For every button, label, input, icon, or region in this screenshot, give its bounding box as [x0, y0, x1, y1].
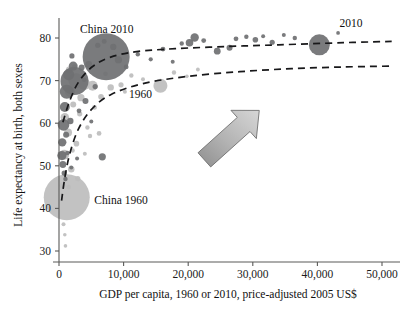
- y-axis-ticks: 304050607080: [40, 32, 60, 257]
- bubble-1960-19: [107, 84, 113, 90]
- bubble-1960-9: [75, 176, 80, 181]
- bubble-2010-42: [82, 98, 88, 104]
- bubble-2010-46: [77, 108, 82, 113]
- bubble-2010-45: [69, 166, 73, 170]
- bubble-2010-34: [282, 33, 286, 37]
- bubble-2010-40: [65, 151, 69, 155]
- bubble-1960-24: [172, 70, 176, 74]
- bubble-2010-12: [79, 64, 85, 70]
- y-tick-label-30: 30: [40, 245, 52, 257]
- bubble-2010-43: [93, 84, 98, 89]
- bubble-2010-37: [336, 31, 340, 35]
- bubble-2010-3: [63, 69, 74, 80]
- bubble-1960-25: [185, 75, 189, 79]
- x-tick-label-30000: 30,000: [237, 268, 269, 281]
- bubble-1960-13: [64, 244, 68, 248]
- x-tick-label-20000: 20,000: [172, 268, 204, 281]
- growth-arrow-shape: [198, 110, 259, 167]
- bubble-2010-44: [99, 153, 106, 160]
- bubble-2010-14: [95, 43, 100, 48]
- bubble-2010-10: [63, 132, 69, 138]
- bubble-1960-22: [141, 77, 145, 81]
- series-2010-label: 2010: [339, 17, 362, 29]
- y-tick-label-80: 80: [40, 32, 52, 44]
- bubble-2010-18: [124, 65, 129, 70]
- bubble-2010-29: [234, 36, 239, 41]
- x-tick-label-40000: 40,000: [302, 268, 334, 281]
- bubble-2010-36: [309, 34, 330, 55]
- y-axis-title: Life expectancy at birth, both sexes: [12, 63, 25, 227]
- bubble-2010-23: [180, 41, 184, 45]
- bubble-2010-41: [75, 157, 79, 161]
- bubble-1960-34: [83, 152, 87, 156]
- bubble-1960-36: [123, 90, 127, 94]
- scatter-plot: 304050607080 010,00020,00030,00040,00050…: [0, 0, 415, 312]
- bubble-2010-17: [115, 56, 122, 63]
- bubble-2010-9: [59, 161, 66, 168]
- y-tick-label-50: 50: [40, 160, 52, 172]
- bubble-1960-30: [97, 131, 102, 136]
- growth-arrow: [198, 110, 259, 167]
- bubble-1960-32: [66, 185, 71, 190]
- bubble-1960-37: [196, 68, 200, 72]
- bubble-2010-26: [201, 38, 206, 43]
- bubble-2010-49: [89, 120, 93, 124]
- y-tick-label-40: 40: [40, 202, 52, 214]
- x-tick-label-0: 0: [56, 268, 62, 280]
- bubble-2010-20: [149, 57, 153, 61]
- china-2010-label: China 2010: [80, 23, 134, 35]
- bubble-1960-29: [88, 134, 92, 138]
- bubble-1960-21: [129, 73, 133, 77]
- bubble-2010-27: [214, 48, 221, 55]
- bubble-2010-16: [110, 44, 116, 50]
- bubble-2010-22: [171, 60, 175, 64]
- china-1960-label: China 1960: [94, 194, 148, 206]
- bubble-2010-35: [293, 36, 297, 40]
- figure-container: 304050607080 010,00020,00030,00040,00050…: [0, 0, 415, 312]
- y-tick-label-60: 60: [40, 117, 52, 129]
- bubble-2010-33: [270, 40, 275, 45]
- bubble-1960-14: [70, 101, 76, 107]
- series-2010-bubbles: [57, 31, 340, 181]
- bubble-1960-16: [85, 125, 89, 129]
- bubble-2010-32: [261, 34, 265, 38]
- x-axis-ticks: 010,00020,00030,00040,00050,000: [56, 262, 398, 281]
- bubble-2010-15: [102, 39, 107, 44]
- bubble-2010-31: [253, 37, 259, 43]
- bubble-1960-11: [62, 222, 66, 226]
- bubble-1960-12: [63, 233, 67, 237]
- x-tick-label-10000: 10,000: [108, 268, 140, 281]
- x-tick-label-50000: 50,000: [366, 268, 398, 281]
- x-axis-title: GDP per capita, 1960 or 2010, price-adju…: [99, 288, 357, 301]
- series-1960-label: 1960: [129, 88, 152, 100]
- bubble-1960-31: [74, 141, 80, 147]
- bubble-1960-20: [118, 82, 123, 87]
- bubble-2010-30: [244, 35, 248, 39]
- bubble-2010-25: [190, 33, 198, 41]
- bubble-2010-38: [63, 177, 67, 181]
- bubble-2010-4: [69, 62, 78, 71]
- bubble-2010-11: [67, 118, 73, 124]
- bubble-2010-48: [82, 78, 86, 82]
- y-tick-label-70: 70: [40, 75, 52, 87]
- bubble-2010-19: [136, 52, 140, 56]
- bubble-2010-47: [69, 53, 74, 58]
